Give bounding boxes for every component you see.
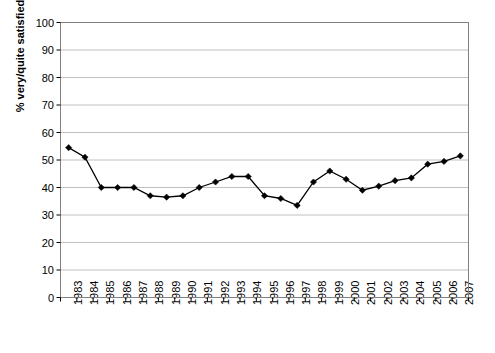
data-series [66, 145, 464, 209]
data-point [229, 173, 235, 179]
data-point [115, 184, 121, 190]
data-point [212, 179, 218, 185]
data-point [131, 184, 137, 190]
data-point [196, 184, 202, 190]
x-axis-ticks [61, 298, 469, 302]
data-point [457, 153, 463, 159]
data-point [98, 184, 104, 190]
data-point [180, 193, 186, 199]
data-point [392, 178, 398, 184]
data-point [441, 158, 447, 164]
line-chart: % very/quite satisfied 01020304050607080… [0, 0, 495, 353]
data-point [147, 193, 153, 199]
data-point [66, 145, 72, 151]
data-point [163, 194, 169, 200]
y-axis-ticks [57, 23, 61, 298]
grid-lines [61, 23, 469, 298]
data-point [278, 195, 284, 201]
plot-area [0, 0, 495, 353]
data-point [82, 154, 88, 160]
data-point [376, 183, 382, 189]
